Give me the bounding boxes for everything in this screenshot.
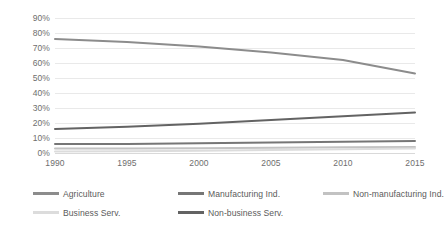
- legend-label: Non-business Serv.: [208, 208, 283, 218]
- x-axis-tick-label: 2005: [248, 158, 294, 168]
- x-axis-baseline: [55, 153, 415, 154]
- series-lines: [55, 18, 415, 153]
- legend-label: Non-manufacturing Ind.: [353, 189, 444, 199]
- y-axis-tick-label: 80%: [4, 28, 50, 38]
- y-axis-tick-label: 70%: [4, 43, 50, 53]
- legend-label: Agriculture: [63, 189, 105, 199]
- legend-item[interactable]: Manufacturing Ind.: [178, 184, 323, 203]
- series-line: [55, 141, 415, 144]
- y-axis-tick-label: 60%: [4, 58, 50, 68]
- legend-label: Business Serv.: [63, 208, 120, 218]
- legend-item[interactable]: Non-business Serv.: [178, 203, 323, 222]
- y-axis-tick-label: 90%: [4, 13, 50, 23]
- x-axis-tick-label: 2000: [176, 158, 222, 168]
- y-axis-tick-label: 30%: [4, 103, 50, 113]
- y-axis-tick-label: 10%: [4, 133, 50, 143]
- legend-swatch-icon: [178, 211, 204, 213]
- x-axis-tick-label: 1995: [104, 158, 150, 168]
- legend-swatch-icon: [33, 192, 59, 194]
- x-axis-tick-label: 1990: [32, 158, 78, 168]
- legend-swatch-icon: [178, 192, 204, 194]
- legend-swatch-icon: [323, 192, 349, 194]
- legend-item[interactable]: Non-manufacturing Ind.: [323, 184, 424, 203]
- series-line: [55, 39, 415, 74]
- x-axis-tick-label: 2015: [392, 158, 438, 168]
- series-line: [55, 113, 415, 130]
- y-axis-tick-label: 40%: [4, 88, 50, 98]
- x-axis-tick-label: 2010: [320, 158, 366, 168]
- y-axis-tick-label: 0%: [4, 148, 50, 158]
- legend-swatch-icon: [33, 211, 59, 213]
- plot-area: [55, 18, 415, 153]
- legend-label: Manufacturing Ind.: [208, 189, 280, 199]
- y-axis-tick-labels: 90%80%70%60%50%40%30%20%10%0%: [0, 18, 50, 153]
- chart-legend: AgricultureManufacturing Ind.Non-manufac…: [33, 184, 424, 222]
- legend-item[interactable]: Agriculture: [33, 184, 178, 203]
- legend-item[interactable]: Business Serv.: [33, 203, 178, 222]
- y-axis-tick-label: 50%: [4, 73, 50, 83]
- y-axis-tick-label: 20%: [4, 118, 50, 128]
